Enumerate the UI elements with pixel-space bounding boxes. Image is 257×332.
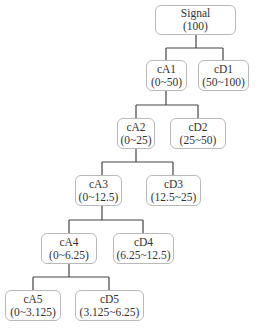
node-range: (0~6.25) xyxy=(49,249,89,262)
node-range: (0~3.125) xyxy=(10,306,56,319)
node-label: cA4 xyxy=(59,236,78,249)
node-label: Signal xyxy=(181,7,210,20)
node-range: (50~100) xyxy=(202,76,245,89)
node-cD1: cD1 (50~100) xyxy=(198,60,249,91)
node-range: (0~25) xyxy=(120,134,151,147)
node-label: cA3 xyxy=(89,178,108,191)
node-range: (25~50) xyxy=(180,134,217,147)
node-label: cA1 xyxy=(157,63,176,76)
node-range: (12.5~25) xyxy=(151,191,197,204)
node-label: cD1 xyxy=(214,63,233,76)
node-range: (100) xyxy=(183,20,208,33)
node-range: (0~12.5) xyxy=(79,191,119,204)
node-label: cD2 xyxy=(188,121,207,134)
node-cA4: cA4 (0~6.25) xyxy=(41,233,97,264)
node-cD2: cD2 (25~50) xyxy=(170,118,226,149)
node-range: (6.25~12.5) xyxy=(116,249,170,262)
node-label: cA5 xyxy=(23,293,42,306)
node-range: (0~50) xyxy=(151,76,182,89)
node-label: cD4 xyxy=(134,236,153,249)
node-label: cA2 xyxy=(126,121,145,134)
node-cD5: cD5 (3.125~6.25) xyxy=(75,290,144,321)
node-signal: Signal (100) xyxy=(155,5,236,35)
node-cD3: cD3 (12.5~25) xyxy=(146,175,201,206)
node-range: (3.125~6.25) xyxy=(80,306,140,319)
node-label: cD3 xyxy=(164,178,183,191)
connector-lines xyxy=(0,0,257,332)
node-cD4: cD4 (6.25~12.5) xyxy=(113,233,174,264)
node-cA1: cA1 (0~50) xyxy=(146,60,187,91)
node-cA3: cA3 (0~12.5) xyxy=(75,175,122,206)
node-cA5: cA5 (0~3.125) xyxy=(5,290,61,321)
node-label: cD5 xyxy=(100,293,119,306)
node-cA2: cA2 (0~25) xyxy=(117,118,155,149)
